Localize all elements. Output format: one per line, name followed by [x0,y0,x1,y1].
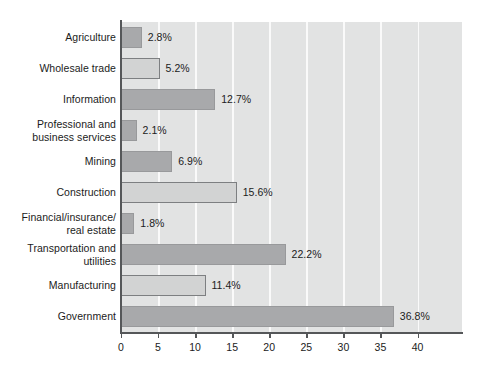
category-label: Government [0,310,116,323]
bar-value-label: 11.4% [212,275,241,296]
x-axis-tick-mark [232,332,233,338]
category-axis: AgricultureWholesale tradeInformationPro… [0,22,116,332]
x-axis-tick-mark [121,332,122,338]
bar-chart: AgricultureWholesale tradeInformationPro… [0,0,480,379]
bar-value-label: 5.2% [166,58,190,79]
y-axis-line [120,20,122,333]
x-axis-tick-label: 20 [254,341,284,354]
gridline [269,22,271,332]
x-axis-tick-mark [269,332,270,338]
x-axis-tick-label: 5 [143,341,173,354]
x-axis-tick-mark [158,332,159,338]
x-axis-tick-mark [343,332,344,338]
gridline [306,22,308,332]
x-axis-tick-mark [306,332,307,338]
x-axis-tick-label: 40 [403,341,433,354]
bar-value-label: 1.8% [140,213,164,234]
x-axis-tick-label: 15 [217,341,247,354]
bar [121,89,215,110]
category-label: Professional and business services [0,118,116,143]
bar-value-label: 22.2% [292,244,322,265]
category-label: Mining [0,155,116,168]
gridline [380,22,382,332]
bar-value-label: 2.8% [148,27,172,48]
bar-value-label: 36.8% [400,306,430,327]
x-axis-tick-label: 25 [291,341,321,354]
category-label: Agriculture [0,31,116,44]
x-axis-tick-label: 0 [106,341,136,354]
category-label: Information [0,93,116,106]
x-axis-tick-label: 35 [365,341,395,354]
bar [121,58,160,79]
bar [121,120,137,141]
bar-value-label: 15.6% [243,182,273,203]
category-label: Transportation and utilities [0,242,116,267]
bar [121,27,142,48]
x-axis-tick-mark [418,332,419,338]
category-label: Financial/insurance/ real estate [0,211,116,236]
gridline [343,22,345,332]
bar-value-label: 12.7% [221,89,251,110]
x-axis-tick-label: 10 [180,341,210,354]
bar [121,213,134,234]
bar [121,182,237,203]
bar [121,151,172,172]
x-axis-tick-label: 30 [328,341,358,354]
x-axis-tick-mark [195,332,196,338]
category-label: Construction [0,186,116,199]
plot-area: 2.8%5.2%12.7%2.1%6.9%15.6%1.8%22.2%11.4%… [121,22,462,332]
bar [121,306,394,327]
gridline [418,22,420,332]
bar [121,244,286,265]
category-label: Wholesale trade [0,62,116,75]
bar-value-label: 6.9% [178,151,202,172]
bar [121,275,206,296]
x-axis-tick-mark [380,332,381,338]
bar-value-label: 2.1% [143,120,167,141]
category-label: Manufacturing [0,279,116,292]
x-axis-line [120,332,463,334]
